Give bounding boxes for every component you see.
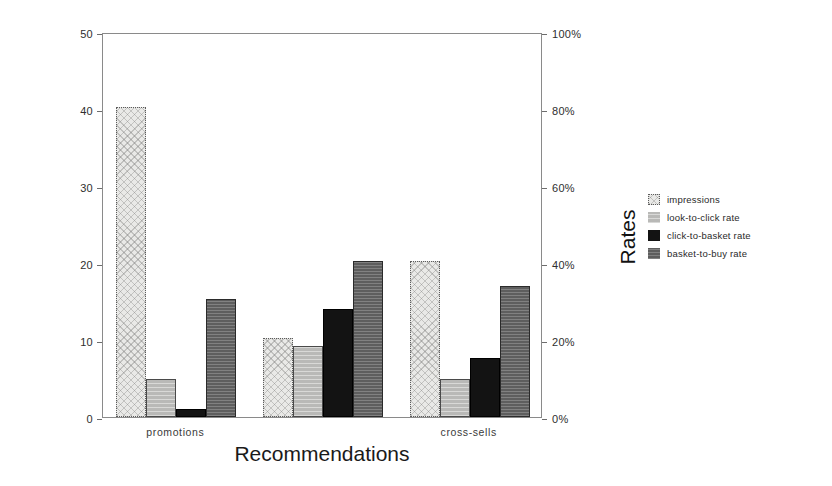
- y-axis-tick-right: [542, 111, 547, 112]
- y-axis-tick-label-left: 10: [80, 336, 93, 348]
- y-axis-tick-label-left: 20: [80, 259, 93, 271]
- y-axis-tick-label-right: 60%: [552, 182, 575, 194]
- y-axis-tick-right: [542, 342, 547, 343]
- bar-click-to-basket-rate: [323, 309, 353, 417]
- bar-look-to-click-rate: [440, 379, 470, 418]
- y-axis-tick-right: [542, 265, 547, 266]
- bar-click-to-basket-rate: [470, 358, 500, 417]
- legend-swatch-icon: [648, 230, 660, 241]
- legend-label: impressions: [667, 194, 720, 205]
- y-axis-tick-label-left: 0: [87, 413, 93, 425]
- x-axis-title: Recommendations: [102, 442, 542, 466]
- y-axis-tick-right: [542, 34, 547, 35]
- y-axis-tick-left: [97, 419, 102, 420]
- y-axis-tick-label-left: 30: [80, 182, 93, 194]
- chart-legend: impressionslook-to-click rateclick-to-ba…: [648, 190, 751, 262]
- y-axis-tick-label-right: 0%: [552, 413, 569, 425]
- bar-look-to-click-rate: [146, 379, 176, 418]
- bar-impressions: [410, 261, 440, 417]
- y-axis-title-right: Rates: [616, 157, 640, 317]
- legend-swatch-icon: [648, 212, 660, 223]
- y-axis-tick-label-right: 80%: [552, 105, 575, 117]
- legend-label: basket-to-buy rate: [667, 248, 747, 259]
- legend-swatch-icon: [648, 194, 660, 205]
- legend-label: look-to-click rate: [667, 212, 740, 223]
- y-axis-tick-label-right: 40%: [552, 259, 575, 271]
- bar-basket-to-buy-rate: [500, 286, 530, 417]
- legend-item[interactable]: impressions: [648, 190, 751, 208]
- legend-swatch-icon: [648, 248, 660, 259]
- legend-item[interactable]: look-to-click rate: [648, 208, 751, 226]
- bar-chart: Impressions (1,000's) Rates 010203040500…: [0, 0, 832, 486]
- legend-label: click-to-basket rate: [667, 230, 751, 241]
- y-axis-tick-left: [97, 188, 102, 189]
- x-axis-tick-label: promotions: [146, 426, 204, 438]
- bar-impressions: [263, 338, 293, 417]
- bar-basket-to-buy-rate: [353, 261, 383, 417]
- y-axis-tick-left: [97, 265, 102, 266]
- y-axis-tick-label-right: 20%: [552, 336, 575, 348]
- y-axis-tick-left: [97, 34, 102, 35]
- bar-basket-to-buy-rate: [206, 299, 236, 417]
- legend-item[interactable]: click-to-basket rate: [648, 226, 751, 244]
- y-axis-tick-left: [97, 342, 102, 343]
- y-axis-tick-right: [542, 419, 547, 420]
- y-axis-tick-label-left: 40: [80, 105, 93, 117]
- y-axis-tick-left: [97, 111, 102, 112]
- y-axis-tick-right: [542, 188, 547, 189]
- plot-area: 010203040500%20%40%60%80%100%: [102, 33, 542, 418]
- bar-look-to-click-rate: [293, 346, 323, 417]
- legend-item[interactable]: basket-to-buy rate: [648, 244, 751, 262]
- bar-click-to-basket-rate: [176, 409, 206, 417]
- y-axis-tick-label-right: 100%: [552, 28, 581, 40]
- y-axis-tick-label-left: 50: [80, 28, 93, 40]
- x-axis-tick-label: cross-sells: [441, 426, 497, 438]
- bar-impressions: [116, 107, 146, 417]
- plot-inner: 010203040500%20%40%60%80%100%: [103, 34, 541, 417]
